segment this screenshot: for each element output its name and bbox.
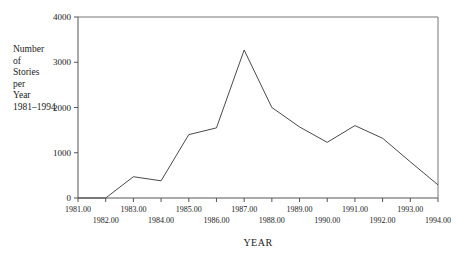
plot-axes: [78, 17, 438, 198]
x-tick-label: 1984.00: [148, 216, 174, 225]
y-axis-title-line: 1981–1994: [13, 102, 56, 112]
x-axis-tick-labels: 1981.001982.001983.001984.001985.001986.…: [65, 205, 451, 225]
x-tick-label: 1981.00: [65, 205, 91, 214]
x-tick-label: 1991.00: [342, 205, 368, 214]
y-axis-title-line: Stories: [13, 67, 40, 77]
data-series-line: [78, 50, 438, 198]
x-tick-label: 1993.00: [397, 205, 423, 214]
y-tick-label: 3000: [53, 57, 72, 67]
x-tick-label: 1987.00: [231, 205, 257, 214]
y-axis-title-line: of: [13, 56, 22, 66]
y-axis-tick-labels: 01000200030004000: [53, 12, 72, 203]
x-tick-label: 1983.00: [120, 205, 146, 214]
plot-frame: [78, 17, 438, 198]
x-tick-label: 1982.00: [93, 216, 119, 225]
y-tick-label: 4000: [53, 12, 72, 22]
plot-border: [78, 17, 438, 198]
y-tick-label: 1000: [53, 148, 72, 158]
x-axis-title: YEAR: [243, 237, 272, 248]
chart-canvas: 01000200030004000 1981.001982.001983.001…: [0, 0, 466, 257]
y-tick-label: 0: [67, 193, 72, 203]
x-tick-label: 1990.00: [314, 216, 340, 225]
x-tick-label: 1992.00: [370, 216, 396, 225]
x-tick-label: 1989.00: [287, 205, 313, 214]
x-tick-label: 1988.00: [259, 216, 285, 225]
y-axis-ticks: [74, 17, 78, 198]
x-tick-label: 1994.00: [425, 216, 451, 225]
y-axis-title: NumberofStoriesperYear1981–1994: [13, 44, 56, 112]
line-chart: 01000200030004000 1981.001982.001983.001…: [0, 0, 466, 257]
x-axis-ticks: [78, 198, 438, 202]
series-path: [78, 50, 438, 198]
y-axis-title-line: Year: [13, 90, 31, 100]
y-tick-label: 2000: [53, 103, 72, 113]
x-axis-title-text: YEAR: [243, 237, 272, 248]
x-tick-label: 1985.00: [176, 205, 202, 214]
y-axis-title-line: Number: [13, 44, 45, 54]
y-axis-title-line: per: [13, 79, 26, 89]
x-tick-label: 1986.00: [203, 216, 229, 225]
